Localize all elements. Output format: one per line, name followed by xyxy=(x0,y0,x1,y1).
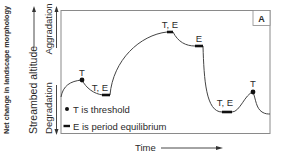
point-label: T xyxy=(79,67,85,78)
landscape-change-diagram: A Net change in landscape morphology Str… xyxy=(0,0,284,162)
point-label: T, E xyxy=(92,82,108,93)
threshold-dot xyxy=(251,90,256,95)
aggradation-label: Aggradation xyxy=(43,3,54,54)
point-label: E xyxy=(196,33,202,44)
arrow-up-icon xyxy=(55,6,59,12)
point-label: T, E xyxy=(162,19,178,30)
point-label: T, E xyxy=(217,97,233,108)
point-label: T xyxy=(250,78,256,89)
degradation-label: Degradation xyxy=(43,82,54,134)
x-axis-label: Time xyxy=(135,142,156,153)
legend-equilibrium-text: E is period equilibrium xyxy=(73,121,167,132)
y-axis-title: Net change in landscape morphology xyxy=(2,6,11,134)
legend-threshold-icon xyxy=(65,107,69,111)
arrow-right-icon xyxy=(216,146,223,150)
y-axis-label: Streambed altitude xyxy=(27,46,39,134)
panel-label: A xyxy=(258,14,265,24)
threshold-dot xyxy=(80,78,85,83)
legend-threshold-text: T is threshold xyxy=(73,104,130,115)
streambed-curve xyxy=(61,32,270,114)
arrow-down-icon xyxy=(55,129,59,135)
arrow-up-icon xyxy=(32,6,36,12)
